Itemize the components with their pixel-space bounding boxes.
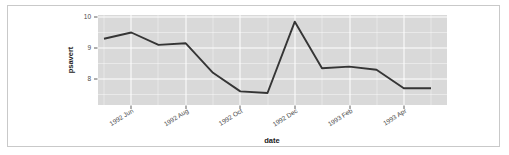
x-tick-label-1993-apr: 1993 Apr [382,106,409,127]
y-tick-label-8: 8 [87,75,91,82]
x-tick-label-1992-dec: 1992 Dec [271,107,299,128]
chart-container: 10 9 8 1992 Jun 1992 Aug 1992 Oct 1992 D… [0,0,509,155]
y-tick-label-10: 10 [84,13,92,20]
plot-panel-background [98,15,447,105]
x-axis-ticks: 1992 Jun 1992 Aug 1992 Oct 1992 Dec 1993… [108,106,409,129]
x-tick-label-1992-oct: 1992 Oct [217,107,243,127]
line-chart: 10 9 8 1992 Jun 1992 Aug 1992 Oct 1992 D… [0,0,509,155]
x-tick-label-1992-aug: 1992 Aug [163,107,191,129]
y-axis-title: psavert [66,46,75,73]
x-tick-label-1993-feb: 1993 Feb [327,107,354,128]
x-axis-title: date [264,136,279,145]
y-tick-label-9: 9 [87,44,91,51]
y-axis-ticks: 10 9 8 [84,13,98,82]
x-tick-label-1992-jun: 1992 Jun [108,107,135,127]
